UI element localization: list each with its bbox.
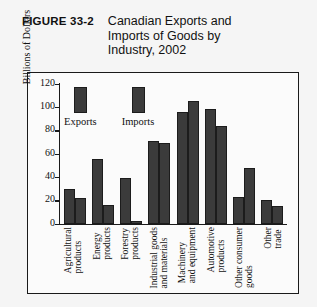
x-category-line: products <box>73 227 83 273</box>
y-tick-mark <box>55 177 60 178</box>
bar-exports <box>92 159 103 223</box>
bar-imports <box>131 221 142 223</box>
y-tick-label: 60 <box>45 147 55 158</box>
x-category-line: and equipment <box>187 227 197 283</box>
x-category-line: and materials <box>159 227 169 288</box>
x-category-label: Othertrade <box>263 227 283 249</box>
y-tick-mark <box>55 130 60 131</box>
x-category: Forestryproducts <box>116 225 145 291</box>
bar-imports <box>244 168 255 224</box>
bar-group <box>202 84 230 224</box>
chart-legend: Exports Imports <box>64 87 154 127</box>
x-category: Energyproducts <box>88 225 117 291</box>
y-tick-label: 100 <box>40 100 55 111</box>
bar-exports <box>205 109 216 223</box>
y-tick-mark <box>55 107 60 108</box>
y-tick-mark <box>55 84 60 85</box>
bar-imports <box>216 126 227 224</box>
y-tick-label: 40 <box>45 170 55 181</box>
y-tick-label: 80 <box>45 123 55 134</box>
figure-panel: FIGURE 33-2 Canadian Exports and Imports… <box>0 0 317 307</box>
legend-swatch-exports <box>74 87 87 113</box>
bar-imports <box>75 198 86 224</box>
x-category-label: Energyproducts <box>92 227 112 260</box>
x-category-label: Automotiveproducts <box>206 227 226 272</box>
bar-exports <box>261 200 272 223</box>
bar-exports <box>233 197 244 224</box>
x-category: Other consumergoods <box>230 225 259 291</box>
x-category-line: products <box>102 227 112 260</box>
x-category: Machineryand equipment <box>173 225 202 291</box>
x-category-line: Other <box>263 227 273 249</box>
x-category-line: Machinery <box>177 227 187 283</box>
bar-exports <box>120 178 131 224</box>
legend-item-exports: Exports <box>64 87 97 127</box>
x-category-label: Forestryproducts <box>120 227 140 260</box>
x-category-label: Other consumergoods <box>234 227 254 288</box>
legend-swatch-imports <box>132 87 145 113</box>
x-category-line: trade <box>273 227 283 249</box>
legend-label-imports: Imports <box>122 116 155 127</box>
y-tick-mark <box>55 154 60 155</box>
x-category-line: goods <box>244 227 254 288</box>
y-tick-label: 0 <box>50 217 55 228</box>
x-category: Industrial goodsand materials <box>145 225 174 291</box>
x-category-label: Agriculturalproducts <box>63 227 83 273</box>
x-category-line: Agricultural <box>63 227 73 273</box>
bar-group <box>173 84 201 224</box>
x-category-line: Energy <box>92 227 102 260</box>
x-category-line: Industrial goods <box>149 227 159 288</box>
x-category: Othertrade <box>259 225 288 291</box>
x-category-line: products <box>130 227 140 260</box>
bar-imports <box>272 206 283 224</box>
bar-group <box>258 84 286 224</box>
x-category-line: products <box>216 227 226 272</box>
chart-plot-frame: Billions of Dollars 020406080100120 Expo… <box>27 72 299 294</box>
y-tick-label: 120 <box>40 77 55 88</box>
figure-title: Canadian Exports and Imports of Goods by… <box>108 14 268 58</box>
bar-imports <box>103 205 114 224</box>
x-category: Agriculturalproducts <box>59 225 88 291</box>
x-category: Automotiveproducts <box>202 225 231 291</box>
bar-exports <box>64 189 75 224</box>
x-category-label: Machineryand equipment <box>177 227 197 283</box>
bar-imports <box>188 101 199 224</box>
x-category-line: Forestry <box>120 227 130 260</box>
bar-group <box>230 84 258 224</box>
bar-imports <box>159 143 170 224</box>
y-axis-title: Billions of Dollars <box>21 0 32 107</box>
x-category-labels: AgriculturalproductsEnergyproductsForest… <box>59 225 287 291</box>
figure-number-label: FIGURE 33-2 <box>22 14 94 27</box>
x-category-line: Automotive <box>206 227 216 272</box>
x-category-label: Industrial goodsand materials <box>149 227 169 288</box>
legend-label-exports: Exports <box>64 116 97 127</box>
y-tick-label: 20 <box>45 193 55 204</box>
bar-exports <box>148 141 159 224</box>
y-tick-mark <box>55 200 60 201</box>
legend-item-imports: Imports <box>122 87 155 127</box>
x-category-line: Other consumer <box>234 227 244 288</box>
bar-exports <box>177 112 188 224</box>
figure-header: FIGURE 33-2 Canadian Exports and Imports… <box>22 14 302 58</box>
